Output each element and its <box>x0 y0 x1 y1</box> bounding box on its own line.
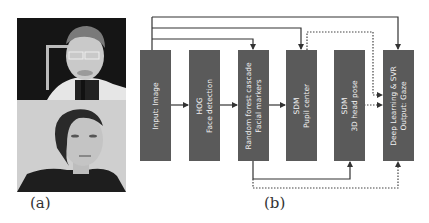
box-sdm-pupil-center: SDM Pupil center <box>286 50 317 161</box>
box-dl-label: Deep Learning & SVR Output: Gaze <box>389 66 409 145</box>
box-rf-line2: Facial markers <box>254 62 264 149</box>
panel-b-label: (b) <box>264 194 285 212</box>
box-deep-learning-svr: Deep Learning & SVR Output: Gaze <box>383 50 414 161</box>
box-dl-line1: Deep Learning & SVR <box>389 66 399 145</box>
box-sdm-pupil-label: SDM Pupil center <box>292 84 312 128</box>
box-dl-line2: Output: Gaze <box>399 66 409 145</box>
box-sdm-pupil-line1: SDM <box>292 84 302 128</box>
box-input-image: Input: Image <box>140 50 171 161</box>
box-hog-line1: HOG <box>195 79 205 133</box>
box-sdm-pupil-line2: Pupil center <box>302 84 312 128</box>
box-sdm-head-line2: 3D head pose <box>350 80 360 131</box>
box-hog-label: HOG Face detection <box>195 79 215 133</box>
box-rf-line1: Random forest cascade <box>244 62 254 149</box>
box-random-forest: Random forest cascade Facial markers <box>238 50 269 161</box>
box-hog-face-detection: HOG Face detection <box>189 50 220 161</box>
box-hog-line2: Face detection <box>205 79 215 133</box>
box-rf-label: Random forest cascade Facial markers <box>244 62 264 149</box>
box-sdm-head-line1: SDM <box>340 80 350 131</box>
box-sdm-head-label: SDM 3D head pose <box>340 80 360 131</box>
box-sdm-head-pose: SDM 3D head pose <box>334 50 365 161</box>
box-input-image-label: Input: Image <box>151 82 161 129</box>
